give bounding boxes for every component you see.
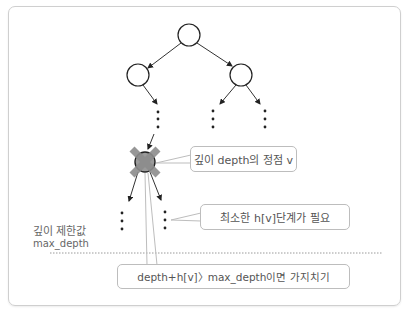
pruned-node-v bbox=[132, 149, 158, 175]
depth-limit-label: 깊이 제한값 bbox=[33, 222, 87, 238]
right-child-node bbox=[230, 64, 252, 86]
left-child-node bbox=[127, 64, 149, 86]
callout-prune-rule: depth+h[v]〉max_depth이면 가지치기 bbox=[117, 264, 350, 289]
callout-node-v: 깊이 depth의 정점 v bbox=[190, 146, 297, 172]
callout-node-v-text: 깊이 depth의 정점 v bbox=[194, 151, 293, 167]
max-depth-label: max_depth bbox=[33, 238, 89, 249]
tree-nodes bbox=[127, 24, 252, 86]
root-node bbox=[178, 24, 200, 46]
callout-prune-rule-text: depth+h[v]〉max_depth이면 가지치기 bbox=[137, 269, 329, 284]
callout-min-steps-text: 최소한 h[v]단계가 필요 bbox=[220, 209, 329, 225]
callout-min-steps: 최소한 h[v]단계가 필요 bbox=[200, 204, 350, 230]
